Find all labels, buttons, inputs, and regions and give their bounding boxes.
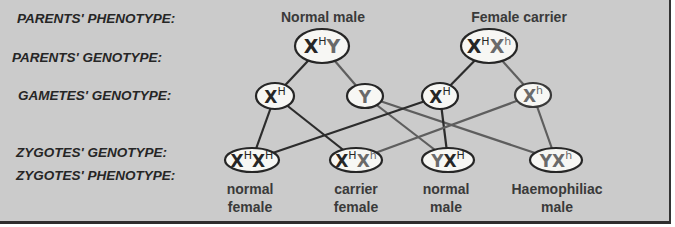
allele-base: X [523, 86, 536, 106]
parent-female-phenotype: Female carrier [471, 9, 567, 25]
gamete-genotype: Y [358, 87, 372, 107]
zygote-XHXh-node: XHXh [330, 148, 382, 172]
gamete-male-XH-node: XH [256, 83, 294, 109]
allele-base: Y [326, 35, 341, 57]
zygote-1-phenotype-line2: female [228, 199, 273, 215]
allele-base: X [443, 151, 456, 171]
parent-male-node: XHY [295, 29, 349, 63]
gamete-male-Y-node: Y [347, 84, 383, 108]
parent-male-phenotype: Normal male [281, 9, 365, 25]
allele-sup: h [504, 35, 511, 48]
allele-base: X [252, 151, 265, 171]
allele-sup: h [565, 149, 572, 162]
allele-base: X [467, 35, 482, 57]
zygote-2-phenotype-line1: carrier [334, 181, 378, 197]
allele-base: X [490, 35, 505, 57]
zygote-4-phenotype-line1: Haemophiliac [511, 181, 602, 197]
allele-base: Y [539, 151, 553, 171]
allele-sup: H [277, 85, 285, 98]
label-parents-phenotype: PARENTS' PHENOTYPE: [17, 11, 175, 26]
gamete-female-Xh-node: Xh [515, 83, 551, 107]
zygote-YXh-node: YXh [530, 148, 582, 172]
zygote-2-phenotype-line2: female [334, 199, 379, 215]
allele-base: X [264, 87, 277, 107]
zygote-YXH-node: YXH [422, 148, 474, 172]
label-zygotes-genotype: ZYGOTES' GENOTYPE: [15, 145, 167, 160]
zygote-XHXH-node: XHXH [225, 148, 279, 172]
allele-sup: h [370, 149, 377, 162]
allele-base: X [357, 151, 370, 171]
gamete-female-XH-node: XH [422, 83, 458, 109]
allele-base: Y [430, 151, 444, 171]
parent-female-node: XHXh [461, 29, 517, 63]
allele-sup: h [536, 84, 543, 97]
allele-sup: H [318, 35, 326, 48]
zygote-4-phenotype-line2: male [541, 199, 573, 215]
label-parents-genotype: PARENTS' GENOTYPE: [12, 50, 162, 65]
inheritance-diagram: PARENTS' PHENOTYPE: PARENTS' GENOTYPE: G… [0, 0, 675, 227]
allele-sup: H [244, 149, 252, 162]
allele-base: X [231, 151, 244, 171]
allele-sup: H [457, 149, 465, 162]
allele-base: X [552, 151, 565, 171]
allele-base: X [304, 35, 319, 57]
allele-base: X [429, 87, 442, 107]
zygote-3-phenotype-line2: male [430, 199, 462, 215]
connection-lines [252, 46, 556, 160]
allele-sup: H [481, 35, 489, 48]
zygote-3-phenotype-line1: normal [423, 181, 470, 197]
zygote-1-phenotype-line1: normal [227, 181, 274, 197]
allele-sup: H [442, 85, 450, 98]
allele-base: X [335, 151, 348, 171]
label-zygotes-phenotype: ZYGOTES' PHENOTYPE: [15, 168, 175, 183]
allele-sup: H [265, 149, 273, 162]
allele-sup: H [348, 149, 356, 162]
label-gametes-genotype: GAMETES' GENOTYPE: [18, 88, 171, 103]
allele-base: Y [358, 87, 372, 107]
